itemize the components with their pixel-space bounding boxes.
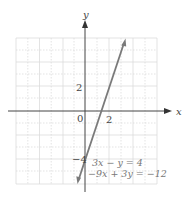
origin-label: 0: [77, 113, 83, 124]
coordinate-plane: x y 0 2 2 −4 3x − y = 4 −9x + 3y = −12: [0, 0, 191, 197]
y-tick-2-label: 2: [76, 82, 82, 93]
x-axis-arrow-icon: [164, 108, 172, 114]
equation-1-label: 3x − y = 4: [92, 157, 143, 168]
y-axis-label: y: [82, 9, 89, 20]
x-axis-label: x: [176, 106, 182, 117]
y-axis-arrow-icon: [82, 20, 88, 28]
axes: [8, 20, 172, 192]
y-tick-neg4-label: −4: [72, 154, 87, 165]
equation-2-label: −9x + 3y = −12: [88, 168, 167, 179]
line-arrow-top-icon: [121, 39, 126, 47]
line-arrow-bottom-icon: [76, 176, 81, 184]
x-tick-2-label: 2: [106, 114, 112, 125]
